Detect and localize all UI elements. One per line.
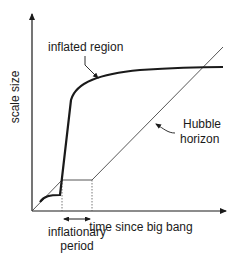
inflated-region-label: inflated region — [48, 40, 123, 54]
y-axis-label: scale size — [8, 70, 22, 123]
hubble-horizon-label-line1: Hubble — [183, 117, 221, 131]
inflationary-period-label-line1: inflationary — [48, 225, 106, 239]
inflated-region-pointer — [85, 56, 98, 78]
inflationary-period-label-line2: period — [60, 239, 93, 253]
hubble-horizon-pointer — [156, 124, 175, 133]
hubble-horizon-label-line2: horizon — [180, 132, 219, 146]
inflation-diagram: scale size time since big bang inflated … — [0, 0, 235, 255]
